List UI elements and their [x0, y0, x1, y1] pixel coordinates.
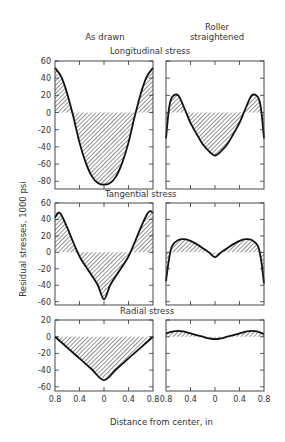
- x-tick-label: 0.4: [122, 395, 135, 404]
- x-tick-label: 0.8: [147, 395, 160, 404]
- y-tick-label: 0: [46, 109, 51, 118]
- y-tick-label: 0: [46, 333, 51, 342]
- x-tick-label: 0.8: [49, 395, 62, 404]
- y-tick-label: 20: [41, 232, 51, 241]
- x-tick-label: 0.4: [233, 395, 246, 404]
- x-tick-label: 0.8: [258, 395, 271, 404]
- x-tick-label: 0: [101, 395, 106, 404]
- hatched-area: [55, 211, 153, 299]
- hatched-area: [166, 239, 264, 284]
- y-tick-label: -60: [38, 383, 51, 392]
- y-tick-label: -20: [38, 349, 51, 358]
- x-tick-label: 0: [212, 395, 217, 404]
- y-tick-label: 60: [41, 199, 51, 208]
- y-tick-label: -20: [38, 126, 51, 135]
- hatched-area: [166, 331, 264, 339]
- y-tick-label: -40: [38, 366, 51, 375]
- hatched-area: [166, 95, 264, 156]
- x-tick-label: 0.4: [73, 395, 86, 404]
- hatched-area: [55, 68, 153, 185]
- x-tick-label: 0.8: [160, 395, 173, 404]
- panel-title: Longitudinal stress: [110, 46, 191, 56]
- y-tick-label: 20: [41, 316, 51, 325]
- y-tick-label: 0: [46, 248, 51, 257]
- y-tick-label: -40: [38, 143, 51, 152]
- panel-title: Tangential stress: [104, 189, 177, 199]
- chart-canvas: Longitudinal stress6040200-20-40-60-80Ta…: [0, 0, 285, 442]
- x-tick-label: 0.4: [184, 395, 197, 404]
- y-tick-label: -80: [38, 177, 51, 186]
- y-tick-label: -60: [38, 298, 51, 307]
- y-tick-label: 20: [41, 91, 51, 100]
- panel-title: Radial stress: [120, 306, 175, 316]
- y-tick-label: -60: [38, 160, 51, 169]
- y-tick-label: 40: [41, 215, 51, 224]
- y-tick-label: 40: [41, 74, 51, 83]
- hatched-area: [55, 337, 153, 380]
- y-tick-label: 60: [41, 57, 51, 66]
- y-tick-label: -20: [38, 265, 51, 274]
- y-tick-label: -40: [38, 281, 51, 290]
